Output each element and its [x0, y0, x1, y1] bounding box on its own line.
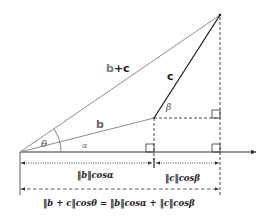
right-angle-marker: [146, 144, 154, 152]
label-b-plus-c: b+c: [106, 62, 130, 75]
label-c: c: [167, 70, 174, 83]
label-proj-b: ‖b‖cosα: [77, 170, 114, 181]
vector-b-plus-c: [20, 15, 220, 152]
label-alpha: α: [82, 141, 88, 150]
label-proj-c: ‖c‖cosβ: [165, 173, 200, 184]
equation: ‖b + c‖cosθ = ‖b‖cosα + ‖c‖cosβ: [43, 198, 195, 209]
label-b: b: [96, 118, 104, 131]
label-b-part: b: [106, 62, 114, 75]
label-plus-c-part: +c: [114, 62, 130, 75]
right-angle-marker: [212, 110, 220, 118]
tip-point: [219, 14, 222, 17]
vector-c: [154, 15, 220, 118]
label-theta: θ: [41, 138, 47, 149]
angle-theta-arc: [54, 129, 61, 152]
vector-projection-diagram: b+c c b θ α β ‖b‖cosα ‖c‖cosβ ‖b + c‖cos…: [0, 0, 268, 220]
label-beta: β: [165, 102, 171, 112]
right-angle-marker: [212, 144, 220, 152]
